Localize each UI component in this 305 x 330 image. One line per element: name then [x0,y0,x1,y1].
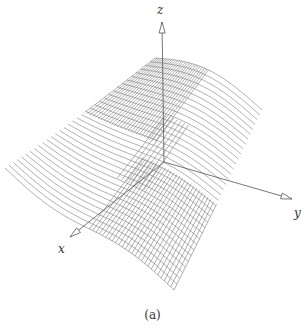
mesh-line [139,123,184,188]
mesh-line [51,137,205,228]
mesh-line [171,202,214,287]
surface-mesh [5,58,262,290]
mesh-line [17,160,182,273]
surface-plot [0,0,305,330]
mesh-line [13,162,179,278]
y-axis-label: y [294,207,301,219]
mesh-line [132,176,180,253]
mesh-line [95,59,163,118]
y-arrow-icon [281,193,292,199]
mesh-line [119,169,169,244]
figure-caption: (a) [0,308,305,322]
z-arrow-icon [159,22,165,33]
mesh-line [164,197,208,281]
mesh-line [93,59,162,117]
mesh-line [122,84,245,144]
mesh-line [168,199,211,284]
mesh-line [99,101,233,169]
x-axis-label: x [58,243,65,255]
mesh-line [85,58,156,112]
mesh-line [150,68,205,139]
mesh-line [103,162,155,235]
mesh-line [87,58,157,113]
mesh-line [90,58,159,115]
mesh-line [141,66,198,137]
coordinate-axes [70,22,292,237]
x-arrow-icon [70,228,80,237]
z-axis-label: z [157,4,163,16]
mesh-line [161,195,205,278]
